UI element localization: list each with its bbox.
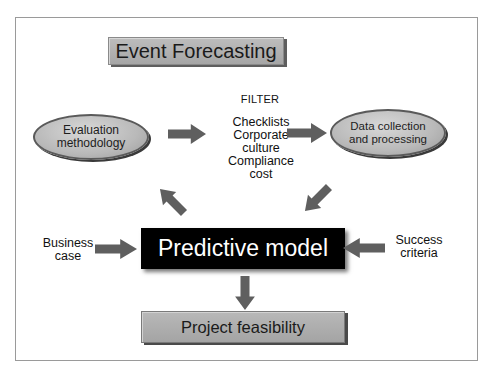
diagram-title: Event Forecasting	[115, 40, 276, 63]
data-collection-node: Data collection and processing	[330, 109, 446, 157]
predictive-model-node: Predictive model	[141, 228, 345, 269]
filter-title: FILTER	[230, 93, 290, 105]
title-banner: Event Forecasting	[108, 37, 284, 65]
evaluation-methodology-node: Evaluation methodology	[33, 114, 149, 160]
project-feasibility-label: Project feasibility	[181, 318, 305, 337]
success-criteria-label: Success criteria	[385, 234, 453, 260]
filter-item: cost	[206, 168, 316, 181]
filter-list: Checklists Corporate culture Compliance …	[206, 116, 316, 181]
success-criteria-line-2: criteria	[385, 247, 453, 260]
data-collection-label-line-2: and processing	[349, 133, 427, 146]
evaluation-label-line-2: methodology	[57, 137, 126, 150]
data-collection-label-line-1: Data collection	[349, 120, 427, 133]
business-case-label: Business case	[33, 237, 103, 263]
diagram-frame	[15, 17, 478, 361]
business-case-line-2: case	[33, 250, 103, 263]
project-feasibility-node: Project feasibility	[141, 311, 345, 343]
predictive-model-label: Predictive model	[158, 235, 328, 262]
